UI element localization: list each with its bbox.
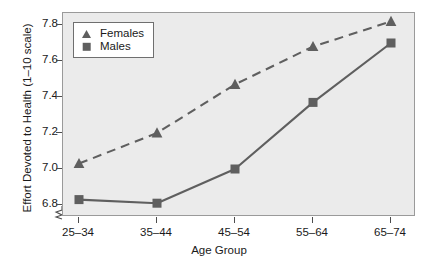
legend-label-females: Females bbox=[100, 27, 144, 40]
data-point-males bbox=[153, 199, 162, 208]
square-marker-icon bbox=[79, 42, 93, 52]
data-point-males bbox=[309, 98, 318, 107]
x-tick-mark bbox=[234, 217, 235, 223]
data-point-females bbox=[308, 41, 319, 51]
x-tick-label: 65–74 bbox=[355, 226, 425, 238]
legend-label-males: Males bbox=[100, 40, 131, 53]
x-tick-mark bbox=[390, 217, 391, 223]
y-axis-title: Effort Devoted to Health (1–10 scale) bbox=[21, 8, 33, 228]
chart-legend: Females Males bbox=[73, 22, 154, 58]
x-tick-mark bbox=[312, 217, 313, 223]
series-line-males bbox=[79, 43, 391, 203]
legend-item-males: Males bbox=[79, 40, 144, 53]
triangle-marker-icon bbox=[79, 29, 93, 39]
chart-figure: 7.8 7.6 7.4 7.2 7.0 6.8 Effort Devoted t… bbox=[0, 0, 438, 267]
legend-item-females: Females bbox=[79, 27, 144, 40]
data-point-males bbox=[231, 165, 240, 174]
data-point-males bbox=[75, 195, 84, 204]
data-point-females bbox=[230, 79, 241, 89]
data-point-females bbox=[152, 127, 163, 137]
x-tick-label: 55–64 bbox=[277, 226, 347, 238]
data-point-males bbox=[387, 39, 396, 48]
x-axis-title: Age Group bbox=[0, 244, 438, 256]
x-tick-label: 45–54 bbox=[199, 226, 269, 238]
x-tick-label: 35–44 bbox=[121, 226, 191, 238]
x-tick-label: 25–34 bbox=[43, 226, 113, 238]
x-tick-mark bbox=[78, 217, 79, 223]
x-tick-mark bbox=[156, 217, 157, 223]
data-point-females bbox=[386, 16, 397, 26]
